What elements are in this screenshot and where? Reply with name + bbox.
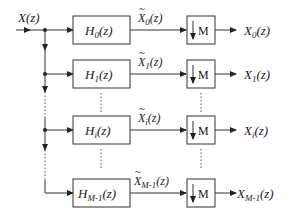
svg-text:~: ~: [139, 102, 145, 114]
branch-i: Hi(z) Xi(z) ~ M Xi(z): [45, 102, 268, 144]
svg-text:XM-1(z): XM-1(z): [236, 186, 274, 203]
svg-text:M: M: [198, 187, 209, 201]
svg-text:M: M: [198, 124, 209, 138]
svg-text:~: ~: [139, 46, 145, 58]
svg-text:M: M: [198, 24, 209, 38]
branch-0: H0(z) X0(z) ~ M X0(z): [45, 2, 270, 44]
svg-text:H0(z): H0(z): [84, 23, 113, 40]
input-label: X(z): [17, 10, 40, 25]
branch-m-minus-1: HM-1(z) XM-1(z) ~ M XM-1(z): [45, 165, 274, 207]
svg-text:Xi(z): Xi(z): [243, 123, 268, 140]
svg-text:X1(z): X1(z): [243, 67, 270, 84]
svg-text:~: ~: [139, 2, 145, 14]
svg-text:M: M: [198, 68, 209, 82]
svg-text:Hi(z): Hi(z): [84, 123, 111, 140]
svg-text:X(z): X(z): [17, 10, 40, 25]
svg-text:X0(z): X0(z): [243, 23, 270, 40]
svg-text:H1(z): H1(z): [84, 67, 113, 84]
branch-1: H1(z) X1(z) ~ M X1(z): [45, 46, 270, 88]
filter-bank-diagram: X(z) H0(z) X0(z) ~ M X0(z) H1(z) X1(z): [0, 0, 299, 215]
svg-text:~: ~: [135, 165, 141, 177]
